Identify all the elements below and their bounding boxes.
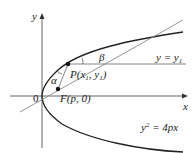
parabola-tangent-diagram: y x 0 P(x1, y1) F(p, 0) α β y = y1 y2 = …	[0, 0, 196, 153]
beta-arc	[82, 58, 83, 64]
x-axis-label: x	[182, 100, 188, 112]
origin-label: 0	[33, 92, 39, 104]
beta-label: β	[98, 51, 105, 63]
focus-label: F(p, 0)	[59, 92, 91, 105]
y-axis-label: y	[31, 10, 37, 22]
point-F	[56, 87, 60, 91]
parabola-equation-label: y2 = 4px	[140, 121, 178, 133]
horizontal-line-label: y = y1	[155, 51, 182, 65]
point-P	[66, 62, 70, 66]
alpha-label: α	[51, 74, 57, 86]
y-axis-arrow-icon	[40, 13, 45, 19]
point-P-label: P(x1, y1)	[69, 68, 107, 82]
tangent-line	[20, 20, 183, 112]
x-axis-arrow-icon	[182, 94, 188, 99]
alpha-arc	[57, 71, 62, 74]
